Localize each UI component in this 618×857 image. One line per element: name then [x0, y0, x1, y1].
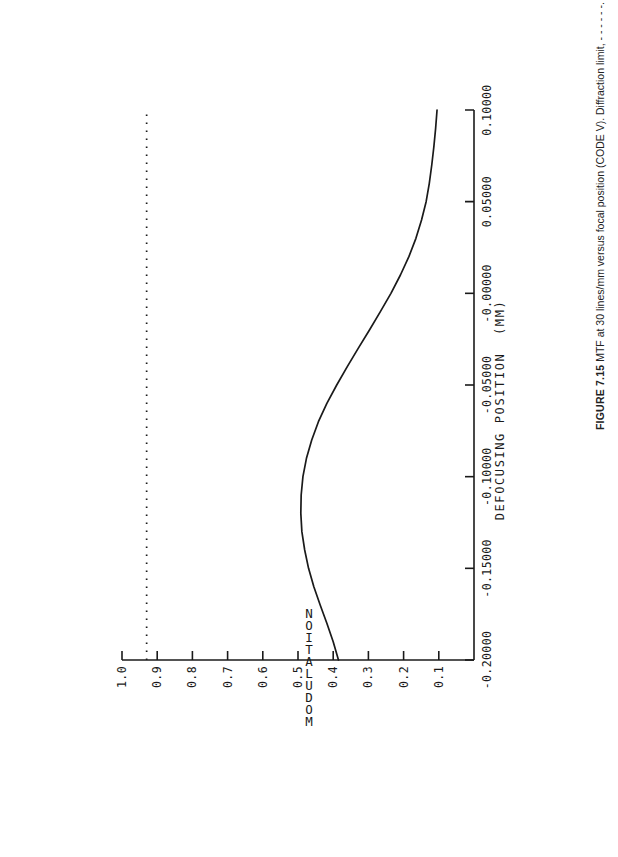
- rotated-figure: -0.20000 -0.15000 -0.10000 -0.05000 -0.0…: [94, 100, 524, 720]
- mtf-curve: [301, 110, 437, 660]
- y-tick-label: 0.9: [150, 666, 164, 696]
- x-tick-marks: [465, 110, 474, 660]
- x-tick-label: -0.00000: [480, 264, 494, 323]
- y-axis-title-letter: I: [303, 632, 315, 645]
- x-tick-label: -0.10000: [480, 447, 494, 506]
- y-axis-title-letter: U: [303, 680, 315, 693]
- y-tick-label: 0.8: [185, 666, 199, 696]
- y-axis-title-letter: O: [303, 620, 315, 633]
- y-tick-label: 0.1: [432, 666, 446, 696]
- y-axis-title-letter: D: [303, 692, 315, 705]
- x-tick-label: -0.20000: [480, 631, 494, 690]
- y-axis-title-letter: O: [303, 704, 315, 717]
- y-axis-title-letter: A: [303, 656, 315, 669]
- figure-caption: FIGURE 7.15 MTF at 30 lines/mm versus fo…: [594, 0, 607, 430]
- y-axis-title-letter: M: [303, 716, 315, 729]
- figure-page: -0.20000 -0.15000 -0.10000 -0.05000 -0.0…: [0, 0, 618, 857]
- y-tick-label: 0.4: [326, 666, 340, 696]
- y-axis-title: MODULATION: [303, 608, 316, 728]
- x-axis-title: DEFOCUSING POSITION (MM): [493, 100, 507, 720]
- x-tick-label: 0.05000: [480, 176, 494, 227]
- y-axis-title-letter: N: [303, 608, 315, 621]
- y-tick-label: 0.7: [221, 666, 235, 696]
- y-tick-marks: [122, 651, 439, 660]
- mtf-plot: -0.20000 -0.15000 -0.10000 -0.05000 -0.0…: [94, 100, 524, 720]
- y-tick-label: 0.2: [397, 666, 411, 696]
- x-tick-label: -0.15000: [480, 539, 494, 598]
- y-axis-title-letter: L: [303, 668, 315, 681]
- x-tick-label: 0.10000: [480, 84, 494, 135]
- x-tick-label: -0.05000: [480, 356, 494, 415]
- y-axis-title-letter: T: [303, 644, 315, 657]
- y-tick-label: 1.0: [115, 666, 129, 696]
- y-tick-label: 0.3: [361, 666, 375, 696]
- y-tick-label: 0.6: [256, 666, 270, 696]
- figure-caption-text: MTF at 30 lines/mm versus focal position…: [594, 2, 606, 362]
- figure-caption-label: FIGURE 7.15: [594, 365, 606, 430]
